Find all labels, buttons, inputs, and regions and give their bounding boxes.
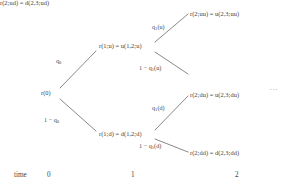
node-down-1: r(1;d) = d(1,2;d) <box>99 131 142 137</box>
prob-down-down: 1 − q1(d) <box>139 143 161 150</box>
node-uu: r(2;uu) = u(2,3;uu) <box>190 11 239 17</box>
branch-root-down <box>60 99 96 131</box>
time-tick-2: 2 <box>235 172 239 179</box>
time-tick-1: 1 <box>131 172 135 179</box>
prob-up-up: q1(u) <box>152 24 165 31</box>
node-dd: r(2;dd) = d(2,3;dd) <box>190 150 239 156</box>
prob-down-down-subscript: 1 <box>152 145 154 150</box>
branch-down-du <box>155 96 188 130</box>
prob-up-down-symbol: 1 − q <box>139 64 152 71</box>
time-axis-caption: time <box>14 172 27 179</box>
prob-up-down-argument: (u) <box>154 64 161 71</box>
prob-down-down-symbol: 1 − q <box>139 142 152 149</box>
continuation-ellipsis: ... <box>270 85 278 92</box>
prob-root-up: q0 <box>56 58 61 65</box>
prob-down-up-argument: (d) <box>157 104 164 111</box>
time-tick-0: 0 <box>47 172 51 179</box>
branch-root-up <box>60 51 96 88</box>
node-up-1: r(1;u) = u(1,2;u) <box>99 43 142 49</box>
prob-up-down-subscript: 1 <box>152 67 154 72</box>
node-root: r(0) <box>41 90 51 96</box>
prob-down-up: q1(d) <box>152 105 165 112</box>
node-ud: r(2;ud) = d(2,3;ud) <box>0 0 49 6</box>
prob-up-up-argument: (u) <box>157 23 164 30</box>
prob-root-down-subscript: 0 <box>57 119 59 124</box>
prob-root-down: 1 − q0 <box>44 117 59 124</box>
figure-canvas: r(0) r(1;u) = u(1,2;u) r(1;d) = d(1,2;d)… <box>0 0 294 191</box>
node-du: r(2;du) = u(2,3;du) <box>190 92 239 98</box>
prob-up-down: 1 − q1(u) <box>139 65 161 72</box>
prob-down-down-argument: (d) <box>154 142 161 149</box>
prob-root-down-symbol: 1 − q <box>44 116 57 123</box>
